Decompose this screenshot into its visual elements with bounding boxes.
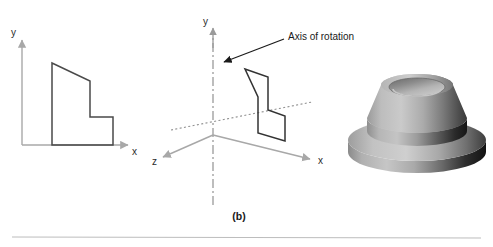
figure-caption: (b) (232, 210, 245, 222)
rotation-y-axis-label: y (203, 16, 208, 27)
profile-outline (52, 63, 113, 145)
rotation-z-axis (163, 135, 213, 157)
bottom-divider (12, 237, 481, 238)
rotation-z-axis-label: z (152, 156, 157, 167)
panel-solid-of-revolution (348, 74, 486, 173)
rotation-x-axis-label: x (318, 155, 323, 166)
profile-x-axis-label: x (132, 146, 137, 157)
axis-of-rotation-leader (224, 39, 284, 62)
figure-container: y x y z x Axis of rotation (0, 0, 493, 247)
technical-figure: y x y z x Axis of rotation (0, 0, 493, 247)
panel-profile-2d: y x (11, 27, 137, 157)
panel-rotation-setup: y z x Axis of rotation (152, 16, 354, 205)
axis-of-rotation-label: Axis of rotation (288, 31, 354, 42)
rotation-profile-outline (245, 69, 285, 141)
rotation-x-axis (213, 135, 310, 159)
profile-y-axis-label: y (11, 27, 16, 38)
ground-dotted-line (171, 102, 312, 130)
